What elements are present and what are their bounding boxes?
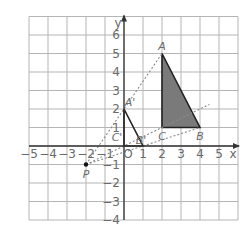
- y-tick-label: 5: [112, 47, 120, 61]
- x-tick-label: 2: [158, 147, 166, 161]
- y-tick-label: 3: [112, 84, 120, 98]
- center-point-p: [84, 162, 88, 166]
- x-tick-label: −3: [58, 147, 76, 161]
- x-tick-label: −2: [77, 147, 95, 161]
- axes: [29, 15, 240, 221]
- point-label-a: A: [157, 40, 166, 53]
- x-tick-label: 1: [139, 147, 147, 161]
- origin-label: O: [123, 147, 132, 161]
- y-tick-label: −2: [102, 176, 120, 190]
- x-tick-label: −5: [20, 147, 38, 161]
- grid: [29, 17, 238, 221]
- y-axis-label: y: [114, 16, 121, 30]
- coordinate-diagram: −5−4−3−2−112345654321−1−2−3−4OxyABCA'B'C…: [0, 0, 249, 240]
- y-axis-arrow-icon: [121, 15, 127, 22]
- y-tick-label: −4: [102, 213, 120, 227]
- x-tick-label: −4: [39, 147, 57, 161]
- x-tick-label: 4: [196, 147, 204, 161]
- y-tick-label: −3: [102, 195, 120, 209]
- point-label-p: P: [83, 168, 90, 181]
- point-label-c: C: [158, 130, 166, 143]
- x-tick-label: 3: [177, 147, 185, 161]
- point-label-a-prime: A': [124, 96, 136, 109]
- x-tick-label: 5: [215, 147, 223, 161]
- point-label-b-prime: B': [136, 134, 147, 147]
- y-tick-label: 4: [112, 65, 120, 79]
- x-axis-label: x: [229, 147, 236, 161]
- point-label-b: B: [196, 130, 204, 143]
- y-tick-label: 2: [112, 102, 120, 116]
- y-tick-label: 6: [112, 28, 120, 42]
- labels: −5−4−3−2−112345654321−1−2−3−4OxyABCA'B'C…: [20, 16, 236, 228]
- point-label-c-prime: C': [112, 131, 123, 144]
- y-tick-label: −1: [102, 158, 120, 172]
